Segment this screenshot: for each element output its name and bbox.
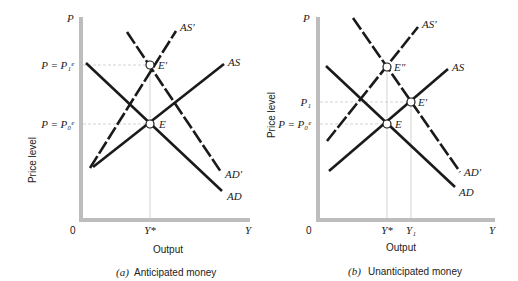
origin-b: 0 — [306, 225, 312, 236]
caption-a: Anticipated money — [134, 267, 216, 278]
caption-letter-b: (b) — [348, 265, 361, 278]
label-as-a: AS — [227, 56, 241, 68]
label-ad-prime-a: AD′ — [224, 168, 243, 180]
label-as-b: AS — [451, 61, 465, 73]
label-ad-a: AD — [226, 190, 242, 202]
y-tick-p1-a: P = P₁ᵉ — [40, 59, 75, 71]
panel-a: P P = P₁ᵉ P = P₀ᵉ Price level E′ E AS′ A… — [27, 12, 253, 279]
origin-a: 0 — [70, 225, 76, 236]
panel-b: P P₁ P = P₀ᵉ Price level E″ E′ E AS′ AS … — [266, 12, 497, 278]
x-axis-symbol-a: Y — [245, 224, 253, 236]
point-e-prime-a — [146, 61, 154, 69]
label-e-double-prime-b: E″ — [393, 61, 406, 73]
as-prime-curve-a — [90, 31, 176, 168]
point-e-b — [383, 120, 391, 128]
x-tick-y1-b: Y₁ — [406, 224, 416, 236]
diagram-canvas: P P = P₁ᵉ P = P₀ᵉ Price level E′ E AS′ A… — [0, 0, 518, 281]
x-axis-label-b: Output — [386, 242, 416, 253]
x-tick-ystar-b: Y* — [381, 224, 393, 236]
label-e-a: E — [158, 118, 166, 130]
x-axis-label-a: Output — [153, 244, 183, 255]
x-tick-ystar-a: Y* — [144, 224, 156, 236]
label-e-prime-b: E′ — [417, 96, 428, 108]
y-axis-label-a: Price level — [27, 137, 38, 183]
y-axis-symbol-b: P — [302, 12, 310, 24]
y-axis-symbol-a: P — [66, 12, 74, 24]
label-ad-b: AD — [458, 186, 474, 198]
label-ad-prime-b: AD′ — [463, 166, 482, 178]
x-axis-symbol-b: Y — [489, 224, 497, 236]
label-e-b: E — [394, 118, 402, 130]
y-axis-label-b: Price level — [266, 92, 277, 138]
label-as-prime-a: AS′ — [179, 21, 195, 33]
caption-letter-a: (a) — [116, 266, 129, 279]
label-e-prime-a: E′ — [157, 59, 168, 71]
point-e-prime-b — [407, 98, 415, 106]
point-e-double-prime-b — [383, 63, 391, 71]
point-e-a — [146, 120, 154, 128]
label-as-prime-b: AS′ — [421, 18, 437, 30]
caption-b: Unanticipated money — [368, 266, 462, 277]
y-tick-p1-b: P₁ — [299, 96, 311, 108]
y-tick-p0-b: P = P₀ᵉ — [277, 118, 312, 130]
y-tick-p0-a: P = P₀ᵉ — [40, 118, 75, 130]
